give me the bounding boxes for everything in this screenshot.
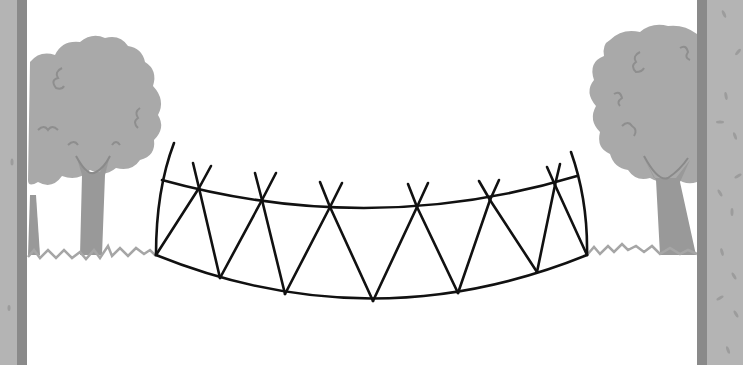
wall-speck [8,305,11,311]
wall-speck [11,159,14,166]
bridge-scene [0,0,743,365]
right-wall-edge [697,0,707,365]
left-wall [0,0,27,365]
right-wall [697,0,743,365]
right-wall-face [706,0,743,365]
left-wall-edge [17,0,27,365]
